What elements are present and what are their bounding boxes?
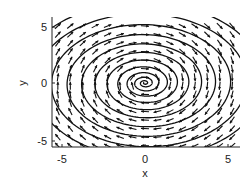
vector-arrow — [57, 65, 60, 73]
vector-arrow — [141, 110, 149, 113]
vector-arrow — [56, 82, 59, 90]
x-tick-label: 0 — [142, 153, 148, 165]
vector-arrow — [205, 108, 210, 114]
vector-arrow — [169, 73, 172, 81]
vector-arrow — [166, 41, 173, 45]
vector-arrow — [93, 65, 97, 72]
vector-arrow — [69, 73, 72, 81]
vector-arrow — [243, 65, 246, 73]
vector-field-plot: -5 0 5 5 0 -5 x y — [0, 0, 251, 190]
vector-arrow — [141, 118, 149, 121]
vector-arrow — [129, 110, 137, 113]
vector-arrow — [204, 135, 211, 140]
vector-arrow — [179, 24, 186, 28]
vector-arrow — [218, 91, 221, 99]
vector-arrow — [166, 50, 173, 54]
vector-arrow — [129, 127, 137, 130]
vector-arrow — [55, 134, 60, 140]
vector-arrow — [81, 65, 84, 72]
vector-arrow — [80, 32, 86, 37]
vector-arrow — [243, 56, 246, 64]
vector-arrow — [116, 127, 123, 130]
vector-arrow — [243, 82, 246, 90]
vector-arrow — [92, 24, 99, 28]
vector-arrow — [218, 65, 221, 73]
y-axis-label: y — [16, 80, 28, 86]
x-tick-label: 5 — [225, 153, 231, 165]
vector-arrow — [68, 40, 73, 46]
vector-arrow — [116, 135, 123, 138]
vector-arrow — [81, 99, 84, 106]
vector-arrow — [68, 57, 72, 64]
vector-arrow — [218, 56, 221, 63]
vector-arrow — [117, 118, 124, 122]
vector-arrow — [243, 117, 247, 124]
vector-arrow — [205, 48, 209, 55]
y-tick-label: 5 — [41, 21, 47, 33]
vector-arrow — [106, 65, 110, 72]
vector-arrow — [154, 119, 162, 122]
vector-arrow — [166, 119, 173, 122]
vector-arrow — [204, 126, 210, 131]
vector-arrow — [230, 91, 233, 99]
vector-arrow — [56, 48, 60, 55]
vector-arrow — [217, 40, 222, 47]
vector-arrow — [243, 99, 246, 107]
vector-arrow — [206, 73, 209, 81]
vector-arrow — [243, 40, 247, 47]
vector-arrow — [193, 73, 196, 81]
vector-arrow — [218, 99, 222, 106]
quiver-arrows — [55, 23, 247, 149]
vector-arrow — [104, 24, 111, 27]
vector-arrow — [181, 73, 184, 81]
vector-arrow — [56, 90, 59, 98]
vector-arrow — [180, 100, 185, 106]
vector-arrow — [67, 143, 73, 148]
vector-arrow — [242, 134, 247, 140]
vector-arrow — [116, 41, 124, 44]
x-tick-label: -5 — [57, 153, 67, 165]
vector-arrow — [105, 109, 111, 115]
vector-arrow — [243, 90, 246, 98]
vector-arrow — [168, 82, 171, 90]
vector-arrow — [68, 108, 72, 115]
vector-arrow — [166, 33, 173, 36]
vector-arrow — [67, 23, 73, 28]
vector-arrow — [243, 48, 246, 55]
vector-arrow — [154, 110, 162, 113]
vector-arrow — [230, 99, 233, 106]
vector-arrow — [180, 57, 185, 63]
vector-arrow — [93, 99, 97, 106]
vector-arrow — [92, 49, 98, 55]
vector-arrow — [218, 73, 221, 81]
vector-arrow — [217, 135, 223, 140]
vector-arrow — [179, 33, 186, 37]
vector-arrow — [231, 65, 234, 73]
vector-arrow — [193, 82, 196, 90]
vector-arrow — [129, 101, 136, 105]
vector-arrow — [56, 117, 60, 124]
vector-arrow — [242, 31, 246, 38]
vector-arrow — [166, 136, 174, 139]
vector-arrow — [243, 108, 247, 115]
vector-arrow — [55, 143, 61, 149]
vector-arrow — [242, 143, 248, 149]
vector-arrow — [181, 82, 184, 90]
vector-arrow — [117, 58, 124, 62]
vector-arrow — [205, 91, 208, 99]
vector-arrow — [243, 73, 246, 81]
vector-arrow — [131, 82, 134, 90]
vector-arrow — [229, 143, 235, 148]
vector-arrow — [116, 33, 124, 36]
vector-arrow — [206, 65, 209, 73]
vector-arrow — [141, 127, 149, 130]
y-tick-label: -5 — [37, 135, 47, 147]
vector-arrow — [242, 23, 247, 29]
vector-arrow — [230, 126, 235, 132]
vector-arrow — [68, 125, 73, 131]
vector-arrow — [217, 23, 223, 29]
vector-arrow — [80, 117, 85, 123]
vector-arrow — [217, 117, 222, 123]
vector-arrow — [129, 118, 137, 121]
vector-arrow — [230, 31, 235, 37]
